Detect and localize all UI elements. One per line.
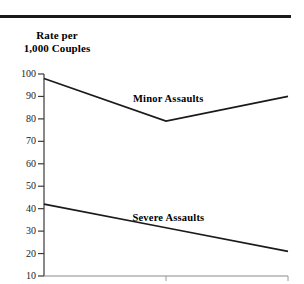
y-axis-tick-label: 40 (10, 204, 36, 214)
y-axis-tick-label: 20 (10, 249, 36, 259)
y-axis-tick-label: 50 (10, 181, 36, 191)
chart-figure: Rate per 1,000 Couples 10090807060504030… (0, 0, 304, 284)
plot-area: 100908070605040302010 Minor AssaultsSeve… (0, 60, 304, 284)
y-axis-title-line-2: 1,000 Couples (2, 42, 112, 55)
top-divider-rule (0, 15, 291, 18)
y-axis-tick-label: 70 (10, 136, 36, 146)
series-label-minor-assaults: Minor Assaults (133, 93, 204, 104)
y-axis-tick-label: 100 (10, 69, 36, 79)
y-axis-tick-label: 80 (10, 114, 36, 124)
y-axis-title-line-1: Rate per (2, 29, 112, 42)
y-axis-title: Rate per 1,000 Couples (2, 29, 112, 55)
y-axis-tick-label: 10 (10, 271, 36, 281)
series-label-severe-assaults: Severe Assaults (132, 212, 204, 223)
y-axis-tick-label: 30 (10, 226, 36, 236)
y-axis-tick-label: 90 (10, 91, 36, 101)
y-axis-tick-label: 60 (10, 159, 36, 169)
